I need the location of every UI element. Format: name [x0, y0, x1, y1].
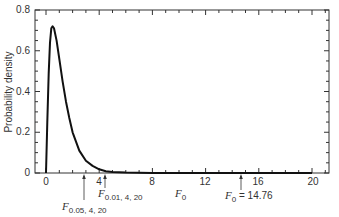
x-axis-label: F0 — [174, 187, 187, 202]
x-ticks — [46, 10, 325, 173]
annotation-f001: F0.01, 4, 20 — [97, 187, 143, 202]
y-tick-label: 0.4 — [16, 86, 30, 97]
x-tick-label: 20 — [307, 176, 319, 187]
y-tick-label: 0.2 — [16, 126, 30, 137]
x-tick-label: 8 — [149, 176, 155, 187]
x-tick-label: 4 — [96, 176, 102, 187]
y-tick-label: 0.6 — [16, 45, 30, 56]
y-tick-label: 0 — [24, 167, 30, 178]
y-axis-label: Probability density — [3, 51, 14, 132]
x-tick-label: 16 — [252, 176, 264, 187]
annotation-f005: F0.05, 4, 20 — [61, 200, 107, 215]
x-tick-label: 12 — [199, 176, 211, 187]
annotation-f0-value: F0 = 14.76 — [224, 189, 273, 204]
x-tick-label: 0 — [43, 176, 49, 187]
f-distribution-chart: 0 0.2 0.4 0.6 0.8 Probability density 0 … — [0, 0, 339, 217]
density-curve — [46, 26, 312, 173]
y-tick-label: 0.8 — [16, 4, 30, 15]
